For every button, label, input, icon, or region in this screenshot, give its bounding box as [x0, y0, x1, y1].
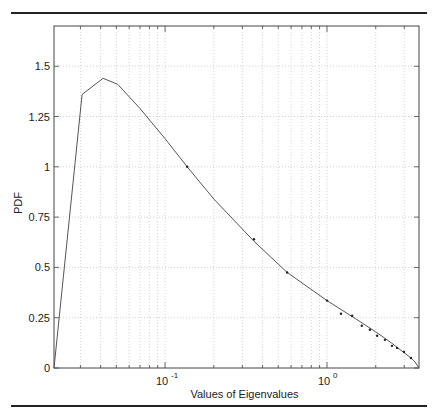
y-tick-label: 1.25: [29, 111, 50, 123]
data-point: [391, 345, 393, 347]
data-point: [361, 325, 363, 327]
data-point: [186, 166, 188, 168]
data-point: [410, 357, 412, 359]
data-point: [376, 335, 378, 337]
data-point: [369, 329, 371, 331]
x-tick-labels: 10-1100: [156, 371, 338, 387]
grid-lines: [54, 26, 419, 368]
pdf-curve: [54, 78, 419, 368]
data-point: [253, 238, 255, 240]
x-tick-exponent: 0: [333, 371, 338, 380]
y-tick-label: 1: [44, 161, 50, 173]
x-tick-label: 10: [156, 375, 168, 387]
x-tick-label: 10: [318, 375, 330, 387]
y-tick-label: 0.5: [35, 261, 50, 273]
data-point: [351, 314, 353, 316]
y-tick-label: 1.5: [35, 60, 50, 72]
axis-ticks: [54, 26, 419, 368]
data-markers: [186, 166, 412, 360]
data-point: [340, 312, 342, 314]
data-point: [403, 351, 405, 353]
data-point: [326, 299, 328, 301]
pdf-chart: 00.250.50.7511.251.5 10-1100 Values of E…: [0, 0, 434, 419]
x-axis-label: Values of Eigenvalues: [190, 388, 299, 400]
y-tick-labels: 00.250.50.7511.251.5: [29, 60, 50, 374]
data-point: [286, 271, 288, 273]
data-point: [396, 347, 398, 349]
data-point: [384, 339, 386, 341]
y-tick-label: 0.75: [29, 211, 50, 223]
plot-area: [54, 26, 419, 368]
y-tick-label: 0: [44, 362, 50, 374]
y-tick-label: 0.25: [29, 312, 50, 324]
y-axis-label: PDF: [12, 192, 24, 214]
x-tick-exponent: -1: [171, 371, 179, 380]
